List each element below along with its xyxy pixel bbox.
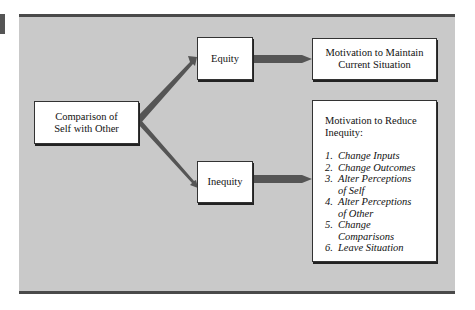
node-reduce-heading: Motivation to Reduce Inequity: xyxy=(325,115,426,139)
node-inequity-label: Inequity xyxy=(208,176,243,188)
list-item-number: 6. xyxy=(325,242,338,254)
list-item-text: Alter Perceptions xyxy=(338,196,411,207)
arrow-equity-to-maintain xyxy=(252,55,312,63)
node-inequity: Inequity xyxy=(197,161,253,203)
node-reduce-heading-line2: Inequity: xyxy=(325,127,426,139)
list-item-number: 4. xyxy=(325,196,338,219)
arrow-comparison-to-inequity xyxy=(138,120,198,188)
arrow-inequity-to-reduce xyxy=(252,175,312,183)
list-item-text-cont: of Self xyxy=(338,185,365,196)
node-maintain-line1: Motivation to Maintain xyxy=(326,47,424,59)
list-item: 5.Change Comparisons xyxy=(325,219,426,242)
node-comparison: Comparison of Self with Other xyxy=(34,101,139,144)
list-item: 1.Change Inputs xyxy=(325,150,426,162)
list-item-text: Leave Situation xyxy=(338,242,404,253)
node-maintain-line2: Current Situation xyxy=(326,59,424,71)
list-item: 2.Change Outcomes xyxy=(325,162,426,174)
list-item-text: Change Comparisons xyxy=(338,219,394,242)
node-equity-label: Equity xyxy=(211,53,239,65)
list-item-text: Change Inputs xyxy=(338,150,400,161)
node-reduce: Motivation to Reduce Inequity: 1.Change … xyxy=(312,100,437,262)
reduce-options-list: 1.Change Inputs 2.Change Outcomes 3.Alte… xyxy=(325,150,426,254)
list-item-text: Alter Perceptions xyxy=(338,173,411,184)
list-item-text-cont: of Other xyxy=(338,208,373,219)
list-item: 4.Alter Perceptionsof Other xyxy=(325,196,426,219)
list-item-number: 5. xyxy=(325,219,338,242)
node-comparison-line2: Self with Other xyxy=(54,123,119,135)
list-item: 3.Alter Perceptionsof Self xyxy=(325,173,426,196)
list-item-number: 2. xyxy=(325,162,338,174)
node-comparison-line1: Comparison of xyxy=(54,111,119,123)
list-item-text: Change Outcomes xyxy=(338,162,415,173)
node-maintain: Motivation to Maintain Current Situation xyxy=(312,38,437,80)
node-reduce-heading-line1: Motivation to Reduce xyxy=(325,115,426,127)
list-item: 6.Leave Situation xyxy=(325,242,426,254)
node-equity: Equity xyxy=(197,37,253,80)
list-item-number: 3. xyxy=(325,173,338,196)
arrow-comparison-to-equity xyxy=(137,56,197,124)
list-item-number: 1. xyxy=(325,150,338,162)
